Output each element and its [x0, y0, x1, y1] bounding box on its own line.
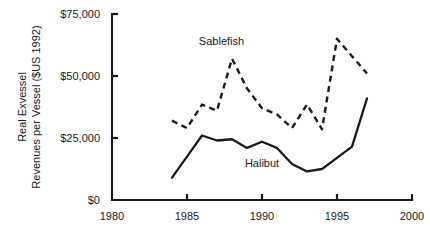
x-tick-label: 1985 [175, 210, 199, 222]
y-axis-title-line-1: Real Exvessel [16, 72, 28, 142]
x-tick-label: 1980 [100, 210, 124, 222]
y-tick-label: $75,000 [60, 8, 100, 20]
x-tick-label: 1995 [325, 210, 349, 222]
chart-figure: $0$25,000$50,000$75,00019801985199019952… [0, 0, 430, 233]
y-tick-label: $25,000 [60, 132, 100, 144]
x-tick-label: 1990 [250, 210, 274, 222]
series-annotation-halibut: Halibut [245, 157, 279, 169]
chart-canvas: $0$25,000$50,000$75,00019801985199019952… [0, 0, 430, 233]
series-annotation-sablefish: Sablefish [199, 35, 244, 47]
series-line-sablefish [172, 39, 367, 130]
x-tick-label: 2000 [400, 210, 424, 222]
y-tick-label: $0 [88, 194, 100, 206]
series-annotations-group: SablefishHalibut [199, 35, 279, 169]
y-axis-title-group: Real ExvesselRevenues per Vessel ($US 19… [16, 25, 42, 188]
y-tick-label: $50,000 [60, 70, 100, 82]
y-axis-title-line-2: Revenues per Vessel ($US 1992) [30, 25, 42, 188]
